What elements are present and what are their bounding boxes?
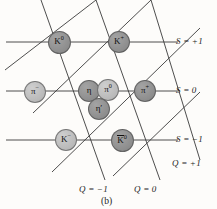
particle-node-piminus: π− [24,81,46,103]
particle-label-Kminus: K− [61,135,71,144]
axis-label-q-zero: Q = 0 [134,184,157,194]
particle-label-pi0: π0 [104,85,112,94]
axis-label-q-minus-one: Q = −1 [79,184,108,194]
meson-nonet-figure: K0K+π−ηπ0η′π+K−K0 S = +1 S = 0 S = −1 Q … [0,0,217,209]
particle-node-Kplus: K+ [108,31,130,53]
particle-node-Kminus: K− [55,129,77,151]
particle-label-K0: K0 [54,37,64,46]
axis-label-s-minus-one: S = −1 [176,134,203,144]
particle-label-eta: η [87,86,92,95]
particle-label-etaprime: η′ [96,104,103,113]
particle-node-etaprime: η′ [88,98,110,120]
axis-label-s-plus-one: S = +1 [176,36,203,46]
particle-node-K0bar: K0 [111,129,134,152]
figure-caption: (b) [101,196,112,206]
particle-label-Kplus: K+ [114,37,124,46]
particle-label-piminus: π− [31,87,39,96]
particle-label-piplus: π+ [141,86,149,95]
axis-label-s-zero: S = 0 [176,85,197,95]
particle-node-piplus: π+ [134,80,156,102]
axis-label-q-plus-one: Q = +1 [172,158,201,168]
particle-label-K0bar: K0 [117,135,127,145]
particle-node-K0: K0 [48,31,71,54]
